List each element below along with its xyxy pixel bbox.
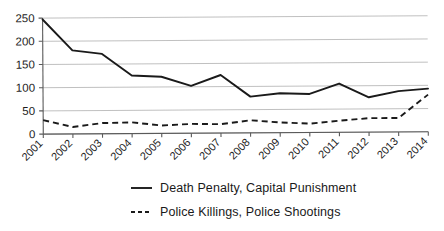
y-tick-label: 150 <box>16 59 35 71</box>
legend-item-police-killings: Police Killings, Police Shootings <box>0 200 444 224</box>
legend-dashed-line-icon <box>131 207 152 217</box>
plot-skew-wrapper: 050100150200250 200120022003200420052006… <box>0 0 444 176</box>
x-tick-label: 2009 <box>256 136 282 162</box>
y-axis-line <box>43 18 44 134</box>
x-tick-label: 2007 <box>197 136 223 162</box>
x-tick-labels-group: 2001200220032004200520062007200820092010… <box>19 135 430 163</box>
x-tick-label: 2001 <box>19 137 45 163</box>
x-axis-line <box>43 132 428 134</box>
x-tick-label: 2013 <box>374 135 400 161</box>
x-tick-label: 2010 <box>286 135 312 161</box>
x-tick-label: 2014 <box>404 135 430 161</box>
y-tick-labels-group: 050100150200250 <box>15 12 35 140</box>
y-axis-group <box>39 18 44 134</box>
gridline <box>43 39 428 41</box>
x-tick-label: 2012 <box>345 135 371 161</box>
x-tick-label: 2006 <box>167 136 193 162</box>
x-tick-label: 2011 <box>316 135 341 160</box>
x-tick-label: 2005 <box>137 136 163 162</box>
y-tick-label: 50 <box>22 105 35 117</box>
gridline <box>43 109 428 111</box>
x-tick-label: 2004 <box>108 137 134 163</box>
y-tick-label: 200 <box>15 35 34 47</box>
x-axis-group <box>43 132 428 138</box>
y-tick-label: 250 <box>15 12 34 24</box>
legend-item-death-penalty: Death Penalty, Capital Punishment <box>0 176 444 200</box>
legend-solid-line-icon <box>131 183 152 193</box>
legend-label-police-killings: Police Killings, Police Shootings <box>160 205 340 219</box>
gridlines-group <box>43 16 429 134</box>
plot-area: 050100150200250 200120022003200420052006… <box>0 0 444 176</box>
x-tick-label: 2008 <box>226 136 252 162</box>
x-tick-label: 2003 <box>78 137 104 163</box>
y-tick-label: 100 <box>16 82 35 94</box>
gridline <box>43 62 428 64</box>
x-tick-label: 2002 <box>49 137 75 163</box>
gridline <box>43 16 428 18</box>
legend-label-death-penalty: Death Penalty, Capital Punishment <box>160 181 356 195</box>
line-chart-figure: 050100150200250 200120022003200420052006… <box>0 0 444 231</box>
chart-legend: Death Penalty, Capital Punishment Police… <box>0 176 444 231</box>
